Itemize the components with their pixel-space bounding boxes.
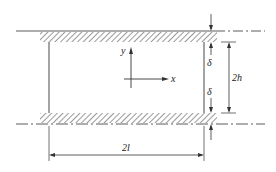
x-axis-arrow-icon bbox=[162, 77, 169, 81]
arrow-down-icon bbox=[209, 25, 213, 31]
top-wall-hatch bbox=[40, 32, 217, 42]
x-axis-label: x bbox=[170, 73, 176, 84]
coordinate-axes bbox=[124, 47, 169, 88]
y-axis-arrow-icon bbox=[129, 47, 133, 54]
y-axis-label: y bbox=[120, 45, 126, 56]
arrow-down-icon bbox=[227, 107, 231, 113]
delta-bottom-label: δ bbox=[207, 86, 212, 97]
arrow-right-icon bbox=[198, 153, 204, 157]
bottom-wall-hatch bbox=[40, 113, 217, 123]
length-label: 2l bbox=[122, 142, 130, 153]
arrow-up-icon bbox=[209, 42, 213, 48]
height-label: 2h bbox=[232, 72, 242, 83]
delta-top-label: δ bbox=[207, 57, 212, 68]
arrow-left-icon bbox=[49, 153, 55, 157]
arrow-down-icon bbox=[209, 107, 213, 113]
arrow-up-icon bbox=[227, 42, 231, 48]
channel-diagram: y x δ δ 2h 2l bbox=[0, 0, 276, 172]
arrow-up-icon bbox=[209, 124, 213, 130]
